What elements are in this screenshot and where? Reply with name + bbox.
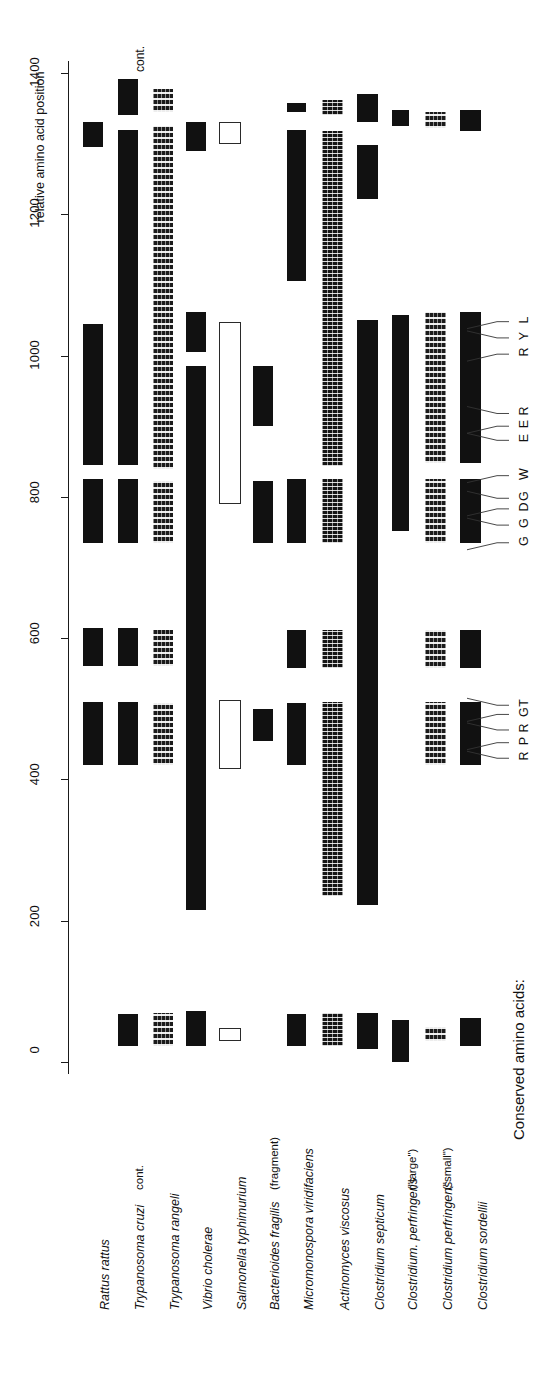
leader-lines: [0, 0, 548, 1381]
conserved-residue-5: G: [517, 532, 531, 550]
conserved-residue-2: R: [517, 719, 531, 737]
conserved-residue-14: Y: [517, 327, 531, 345]
conserved-residue-12: R: [517, 402, 531, 420]
conserved-residue-6: G: [517, 514, 531, 532]
conserved-residue-9: W: [517, 465, 531, 483]
legend-title: Conserved amino acids:: [510, 979, 527, 1140]
conserved-residue-4: T: [517, 694, 531, 712]
figure-canvas: 0200400600800100012001400relative amino …: [0, 0, 548, 1381]
conserved-residue-13: R: [517, 343, 531, 361]
conserved-residue-15: L: [517, 311, 531, 329]
conserved-residue-8: G: [517, 487, 531, 505]
